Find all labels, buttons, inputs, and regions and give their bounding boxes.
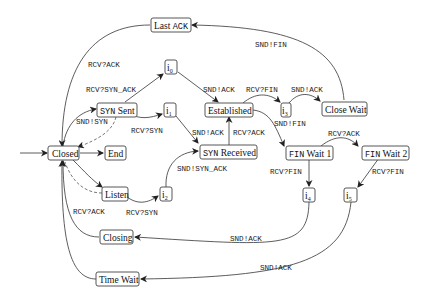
svg-text:Time Wait: Time Wait [99,275,139,285]
svg-text:Closing: Closing [103,233,133,243]
edge-closing-closed [63,161,99,237]
state-closing: Closing [100,230,133,244]
edge-established-i3 [243,95,280,103]
label-closewait-lastack: SND!FIN [255,41,287,49]
label-i5-timewait: SND!ACK [260,264,292,272]
label-closed-synsent: SND!SYN [76,118,108,126]
state-fin-wait-2: FIN Wait 2 [362,146,409,160]
edge-timewait-closed [62,161,96,279]
svg-text:Closed: Closed [52,149,79,159]
svg-text:Listen: Listen [105,190,129,200]
state-closed: Closed [48,146,79,160]
label-synsent-i1: RCV?SYN [131,127,163,135]
label-synreceived-established: RCV?ACK [233,129,265,137]
label-synsent-i0: RCV?SYN_ACK [86,86,137,94]
edge-established-finwait1 [253,110,284,146]
svg-text:Established: Established [208,106,252,116]
label-finwait2-i5: RCV?FIN [372,168,404,176]
state-i2: i2 [160,187,172,201]
tcp-state-diagram: RCV?ACK SND!FIN RCV?SYN_ACK SND!ACK SND!… [0,0,427,301]
edge-listen-closed [65,162,102,193]
state-close-wait: Close Wait [322,102,367,116]
state-syn-sent: SYN Sent [97,103,137,117]
label-finwait1-finwait2: RCV?ACK [328,130,360,138]
state-i4: i4 [303,188,315,202]
label-established-i3: RCV?FIN [246,86,278,94]
state-i3: i3 [281,103,291,117]
state-fin-wait-1: FIN Wait 1 [286,146,333,160]
svg-text:FIN Wait 2: FIN Wait 2 [365,149,408,160]
state-time-wait: Time Wait [96,272,139,286]
state-established: Established [205,103,253,117]
state-i0: i0 [165,60,177,74]
edge-i3-closewait [289,94,320,103]
label-closing-closed: RCV?ACK [73,208,105,216]
svg-text:Close Wait: Close Wait [325,105,367,115]
nodes: Closed End Listen SYN Sent i0 i1 [48,18,409,286]
state-listen: Listen [102,187,129,201]
label-i1-synreceived: SND!ACK [192,129,224,137]
edge-listen-i2 [127,196,158,202]
edge-closed-synsent [63,109,96,146]
svg-text:Last ACK: Last ACK [154,21,189,32]
label-i3-closewait: SND!ACK [291,86,323,94]
state-end: End [105,146,126,160]
label-i4-closing: SND!ACK [230,235,262,243]
label-finwait1-i4: RCV?FIN [270,168,302,176]
state-last-ack: Last ACK [151,18,191,32]
label-listen-i2: RCV?SYN [126,209,158,217]
svg-text:End: End [108,149,124,159]
state-i5: i5 [344,188,357,202]
label-lastack-closed: RCV?ACK [88,61,120,69]
edge-finwait1-finwait2 [321,138,358,146]
svg-text:SYN Received: SYN Received [203,148,256,159]
edge-i4-closing [135,202,309,243]
label-established-finwait1: SND!FIN [274,120,306,128]
svg-text:SYN Sent: SYN Sent [100,106,135,117]
state-syn-received: SYN Received [200,145,257,159]
svg-text:FIN Wait 1: FIN Wait 1 [289,149,332,160]
state-i1: i1 [164,103,176,117]
label-i2-synreceived: SND!SYN_ACK [177,165,228,173]
label-i0-established: SND!ACK [203,86,235,94]
